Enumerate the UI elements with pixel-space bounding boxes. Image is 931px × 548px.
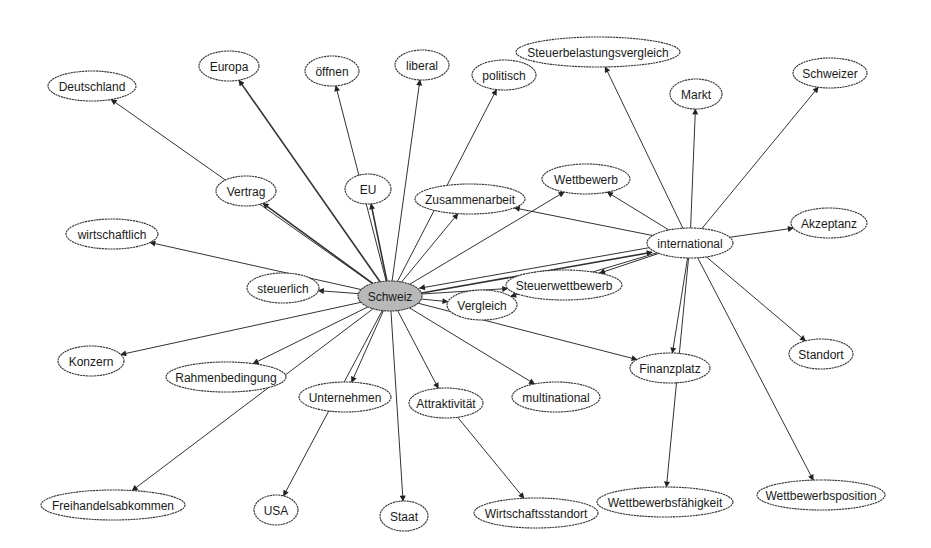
node-usa: USA	[254, 495, 298, 525]
node-akzeptanz: Akzeptanz	[791, 208, 867, 238]
node-label: Zusammenarbeit	[425, 193, 516, 207]
node-attraktivitaet: Attraktivität	[409, 388, 483, 418]
node-rahmenbedingung: Rahmenbedingung	[166, 362, 286, 392]
node-freihandelsabkommen: Freihandelsabkommen	[41, 490, 185, 520]
concept-network-diagram: SchweizinternationalDeutschlandEuropaöff…	[0, 0, 931, 548]
edge-schweiz-to-eu	[371, 204, 387, 281]
node-label: Finanzplatz	[639, 362, 700, 376]
node-label: Freihandelsabkommen	[52, 499, 174, 513]
node-vertrag: Vertrag	[216, 176, 276, 206]
node-eu: EU	[345, 174, 391, 204]
edge-schweiz-to-staat	[391, 311, 403, 501]
node-label: Steuerbelastungsvergleich	[527, 46, 668, 60]
node-label: Europa	[210, 60, 249, 74]
node-standort: Standort	[789, 339, 853, 369]
node-wettbewerbsfaehigkeit: Wettbewerbsfähigkeit	[597, 487, 733, 517]
node-label: Standort	[798, 348, 844, 362]
edge-international-to-markt	[691, 109, 696, 228]
edge-international-to-wettbewerb	[607, 192, 668, 230]
node-label: Rahmenbedingung	[175, 371, 276, 385]
edge-international-to-wettbewerbsposition	[698, 258, 814, 480]
node-schweiz: Schweiz	[358, 281, 422, 311]
node-label: Wirtschaftsstandort	[485, 507, 588, 521]
node-staat: Staat	[380, 501, 428, 531]
node-liberal: liberal	[395, 50, 449, 80]
node-label: Staat	[390, 510, 419, 524]
node-label: politisch	[482, 69, 525, 83]
node-label: Markt	[681, 88, 712, 102]
node-konzern: Konzern	[58, 346, 124, 376]
node-label: EU	[360, 183, 377, 197]
node-steuerbelastungsvergleich: Steuerbelastungsvergleich	[516, 37, 680, 67]
edges-layer	[111, 67, 818, 501]
node-label: Akzeptanz	[801, 217, 857, 231]
node-international: international	[647, 228, 733, 258]
node-wirtschaftlich: wirtschaftlich	[66, 219, 158, 249]
node-politisch: politisch	[472, 60, 536, 90]
node-label: Wettbewerbsfähigkeit	[608, 496, 723, 510]
node-deutschland: Deutschland	[48, 71, 136, 101]
edge-international-to-standort	[706, 257, 805, 341]
node-label: Konzern	[69, 355, 114, 369]
node-multinational: multinational	[512, 382, 600, 412]
node-label: steuerlich	[257, 282, 308, 296]
node-finanzplatz: Finanzplatz	[630, 353, 710, 383]
node-wirtschaftsstandort: Wirtschaftsstandort	[474, 498, 598, 528]
node-label: Deutschland	[59, 80, 126, 94]
node-label: multinational	[522, 391, 589, 405]
node-oeffnen: öffnen	[305, 56, 359, 86]
node-label: USA	[264, 504, 289, 518]
node-label: Unternehmen	[309, 391, 382, 405]
node-markt: Markt	[670, 79, 722, 109]
node-label: Schweiz	[368, 290, 413, 304]
node-europa: Europa	[199, 51, 259, 81]
node-wettbewerbsposition: Wettbewerbsposition	[757, 480, 885, 510]
node-label: liberal	[406, 59, 438, 73]
edge-international-to-akzeptanz	[730, 228, 794, 237]
edge-schweiz-to-steuerlich	[318, 291, 358, 294]
node-unternehmen: Unternehmen	[299, 382, 391, 412]
node-label: Steuerwettbewerb	[516, 279, 613, 293]
node-steuerwettbewerb: Steuerwettbewerb	[506, 270, 622, 300]
node-label: international	[657, 237, 722, 251]
edge-attraktivitaet-to-wirtschaftsstandort	[458, 417, 524, 498]
node-steuerlich: steuerlich	[247, 273, 319, 303]
edge-schweiz-to-rahmenbedingung	[253, 307, 368, 364]
node-label: Wettbewerb	[554, 173, 618, 187]
edge-schweiz-to-liberal	[392, 80, 420, 281]
node-label: Wettbewerbsposition	[765, 489, 876, 503]
node-label: Attraktivität	[416, 397, 476, 411]
node-wettbewerb: Wettbewerb	[542, 164, 630, 194]
edge-schweiz-to-vergleich	[421, 299, 448, 302]
node-label: wirtschaftlich	[77, 228, 147, 242]
edge-international-to-finanzplatz	[672, 258, 687, 353]
node-label: Schweizer	[802, 67, 857, 81]
node-label: öffnen	[315, 65, 348, 79]
edge-international-to-schweizer	[702, 87, 818, 228]
node-zusammenarbeit: Zusammenarbeit	[415, 184, 525, 214]
node-label: Vertrag	[227, 185, 266, 199]
node-vergleich: Vergleich	[447, 290, 517, 320]
node-label: Vergleich	[457, 299, 506, 313]
node-schweizer: Schweizer	[793, 58, 867, 88]
edge-international-to-zusammenarbeit	[514, 208, 652, 236]
nodes-layer: SchweizinternationalDeutschlandEuropaöff…	[41, 37, 885, 531]
